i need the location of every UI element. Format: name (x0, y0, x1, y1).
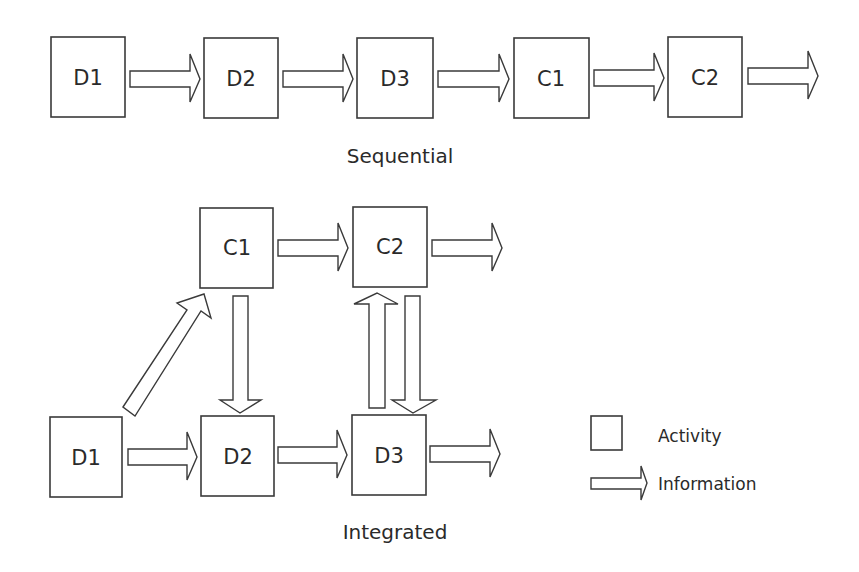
information-arrow-icon (594, 53, 664, 101)
information-arrow-down-icon (220, 296, 261, 413)
sequential-caption: Sequential (347, 144, 454, 168)
activity-label-d2: D2 (226, 67, 256, 91)
activity-label-d3: D3 (374, 444, 404, 468)
legend-activity-square-icon (591, 416, 622, 450)
legend-activity-label: Activity (658, 426, 722, 446)
information-arrow-icon (748, 51, 818, 99)
information-arrow-icon (438, 54, 509, 102)
information-arrow-icon (278, 430, 347, 478)
information-arrow-icon (130, 54, 200, 102)
information-arrow-icon (128, 432, 197, 480)
integrated-caption: Integrated (343, 520, 448, 544)
information-arrow-diagonal-icon (123, 294, 211, 416)
information-arrow-icon (283, 54, 353, 102)
activity-label-d1: D1 (71, 446, 101, 470)
legend-information-label: Information (658, 474, 756, 494)
information-arrow-up-icon (354, 293, 398, 408)
activity-label-d1: D1 (73, 66, 103, 90)
activity-label-c1: C1 (223, 236, 251, 260)
activity-label-c2: C2 (691, 66, 719, 90)
activity-label-c1: C1 (537, 67, 565, 91)
information-arrow-down-icon (392, 296, 436, 413)
legend-information-arrow-icon (591, 466, 647, 500)
process-diagram: D1 D2 D3 C1 C2 Sequential C1 C2 (0, 0, 859, 572)
legend: Activity Information (591, 416, 756, 500)
information-arrow-icon (278, 223, 348, 271)
information-arrow-icon (432, 223, 502, 271)
activity-label-d3: D3 (380, 67, 410, 91)
information-arrow-icon (430, 429, 500, 477)
activity-label-c2: C2 (376, 235, 404, 259)
sequential-flow: D1 D2 D3 C1 C2 Sequential (51, 37, 818, 168)
activity-label-d2: D2 (223, 445, 253, 469)
integrated-flow: C1 C2 D1 D2 D3 Integrated (50, 207, 502, 544)
